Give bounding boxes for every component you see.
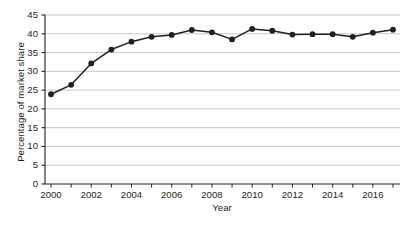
data-point-marker xyxy=(330,31,336,37)
data-point-marker xyxy=(68,82,74,88)
data-point-marker xyxy=(149,34,155,40)
data-point-marker xyxy=(310,31,316,37)
data-point-marker xyxy=(350,34,356,40)
axis-lines xyxy=(45,15,400,184)
data-point-marker xyxy=(189,27,195,33)
data-point-marker xyxy=(370,30,376,36)
line-chart: Percentage of market share Year 05101520… xyxy=(0,0,418,231)
data-point-marker xyxy=(269,28,275,34)
plot-area xyxy=(0,0,418,231)
data-point-marker xyxy=(108,47,114,53)
data-point-marker xyxy=(390,27,396,33)
data-line xyxy=(51,29,393,94)
data-point-marker xyxy=(249,26,255,32)
data-point-marker xyxy=(290,32,296,38)
data-point-marker xyxy=(229,37,235,43)
data-points xyxy=(48,26,396,97)
data-point-marker xyxy=(88,61,94,67)
series-polyline xyxy=(51,29,393,94)
gridlines xyxy=(45,15,400,165)
data-point-marker xyxy=(209,29,215,35)
data-point-marker xyxy=(129,39,135,45)
data-point-marker xyxy=(169,32,175,38)
data-point-marker xyxy=(48,91,54,97)
